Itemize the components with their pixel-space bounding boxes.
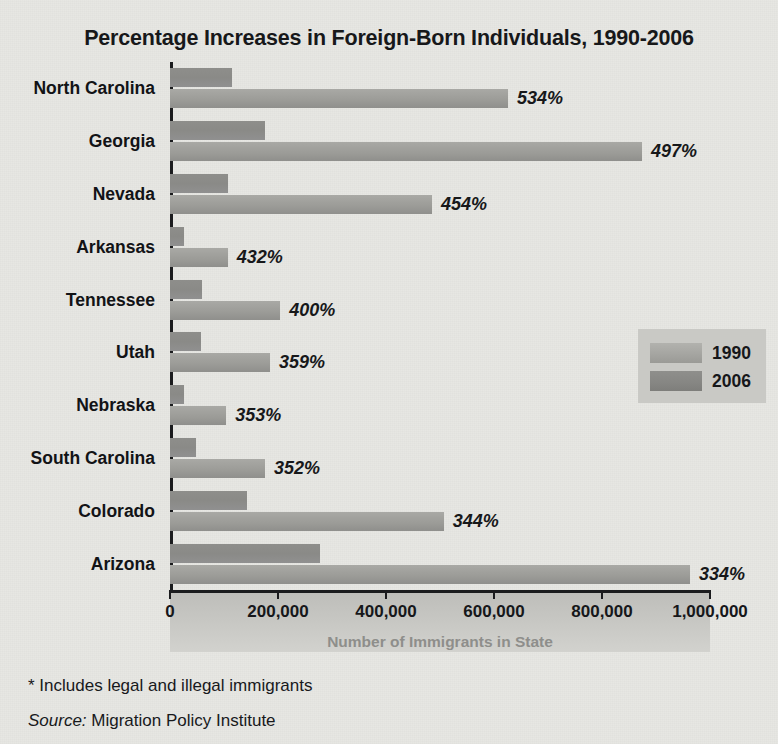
bar-1990[interactable] <box>170 385 184 404</box>
legend-label-2006: 2006 <box>712 371 751 392</box>
bar-1990[interactable] <box>170 491 247 510</box>
legend-swatch-1990 <box>650 343 702 363</box>
x-axis-tick-label: 1,000,000 <box>672 602 748 622</box>
footnote-note: * Includes legal and illegal immigrants <box>28 676 312 696</box>
bar-value-label: 534% <box>517 88 563 109</box>
bar-2006[interactable] <box>170 89 508 108</box>
bar-1990[interactable] <box>170 121 265 140</box>
x-axis-title: Number of Immigrants in State <box>170 633 710 651</box>
y-axis-label-north-carolina: North Carolina <box>33 78 155 99</box>
bar-group: 534% <box>170 62 710 115</box>
bar-group: 497% <box>170 115 710 168</box>
bar-1990[interactable] <box>170 68 232 87</box>
y-axis-label-colorado: Colorado <box>78 500 155 521</box>
x-axis-tick <box>385 590 387 599</box>
legend-label-1990: 1990 <box>712 343 751 364</box>
x-axis-tick <box>169 590 171 599</box>
bar-value-label: 400% <box>289 300 335 321</box>
bar-2006[interactable] <box>170 301 280 320</box>
chart-figure: Percentage Increases in Foreign-Born Ind… <box>0 0 778 744</box>
x-axis-tick <box>277 590 279 599</box>
bar-group: 352% <box>170 432 710 485</box>
y-axis-label-nebraska: Nebraska <box>76 395 155 416</box>
bar-value-label: 359% <box>279 352 325 373</box>
bar-value-label: 454% <box>441 194 487 215</box>
y-axis-label-arkansas: Arkansas <box>76 236 155 257</box>
chart-legend: 19902006 <box>638 329 766 403</box>
bar-2006[interactable] <box>170 565 690 584</box>
bar-2006[interactable] <box>170 248 228 267</box>
x-axis-tick-label: 800,000 <box>571 602 632 622</box>
bar-1990[interactable] <box>170 174 228 193</box>
bar-group: 334% <box>170 537 710 590</box>
x-axis-line <box>170 590 711 593</box>
bar-value-label: 432% <box>237 247 283 268</box>
x-axis-tick-label: 200,000 <box>247 602 308 622</box>
bar-1990[interactable] <box>170 227 184 246</box>
bar-2006[interactable] <box>170 195 432 214</box>
bar-1990[interactable] <box>170 280 202 299</box>
bar-group: 344% <box>170 484 710 537</box>
bar-value-label: 344% <box>453 511 499 532</box>
y-axis-label-georgia: Georgia <box>89 131 155 152</box>
x-axis-tick-label: 600,000 <box>463 602 524 622</box>
x-axis-tick <box>709 590 711 599</box>
bar-group: 454% <box>170 168 710 221</box>
legend-swatch-2006 <box>650 371 702 391</box>
y-axis-label-nevada: Nevada <box>93 184 155 205</box>
x-axis-tick <box>601 590 603 599</box>
y-axis-label-tennessee: Tennessee <box>66 289 155 310</box>
bar-value-label: 352% <box>274 458 320 479</box>
source-label: Source: <box>28 711 87 730</box>
bar-2006[interactable] <box>170 353 270 372</box>
bar-2006[interactable] <box>170 406 226 425</box>
y-axis-label-south-carolina: South Carolina <box>31 448 155 469</box>
x-axis-tick-label: 400,000 <box>355 602 416 622</box>
x-axis-tick <box>493 590 495 599</box>
bar-value-label: 497% <box>651 141 697 162</box>
chart-title: Percentage Increases in Foreign-Born Ind… <box>0 26 778 51</box>
bar-group: 432% <box>170 220 710 273</box>
legend-item-1990[interactable]: 1990 <box>650 342 751 364</box>
bar-group: 359% <box>170 326 710 379</box>
footnote-source: Source: Migration Policy Institute <box>28 711 276 731</box>
y-axis-category-labels: North CarolinaGeorgiaNevadaArkansasTenne… <box>0 62 163 590</box>
bar-1990[interactable] <box>170 332 201 351</box>
bar-2006[interactable] <box>170 512 444 531</box>
bar-1990[interactable] <box>170 438 196 457</box>
bar-value-label: 353% <box>235 405 281 426</box>
bar-group: 400% <box>170 273 710 326</box>
plot-area: 0200,000400,000600,000800,0001,000,000 5… <box>170 62 710 590</box>
bar-group: 353% <box>170 379 710 432</box>
legend-item-2006[interactable]: 2006 <box>650 370 751 392</box>
bar-2006[interactable] <box>170 142 642 161</box>
x-axis-tick-label: 0 <box>165 602 174 622</box>
y-axis-label-utah: Utah <box>116 342 155 363</box>
bar-2006[interactable] <box>170 459 265 478</box>
y-axis-label-arizona: Arizona <box>91 553 155 574</box>
bar-1990[interactable] <box>170 544 320 563</box>
source-value: Migration Policy Institute <box>87 711 276 730</box>
bar-value-label: 334% <box>699 564 745 585</box>
